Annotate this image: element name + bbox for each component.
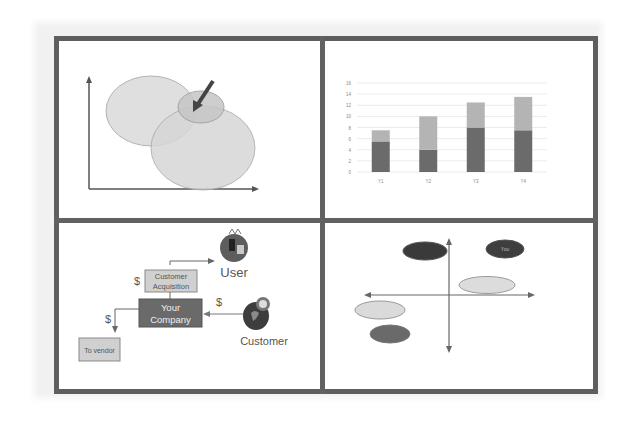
bar-segment (419, 150, 437, 172)
x-tick-label: Y4 (520, 179, 526, 184)
chart-y-ticks: 0246810121416 (346, 81, 352, 175)
y-tick-label: 8 (348, 126, 351, 131)
bar-segment (467, 128, 485, 173)
competitor-ellipse-top-left (403, 242, 447, 260)
bar-segment (372, 141, 390, 172)
competitor-ellipse-bottom (370, 325, 410, 343)
dollar-vendor: $ (105, 313, 111, 325)
dollar-acquisition: $ (134, 275, 140, 287)
company-line1: Your (161, 302, 180, 313)
y-tick-label: 10 (346, 114, 352, 119)
y-tick-label: 2 (348, 159, 351, 164)
bar-chart-panel: 0246810121416 Y1Y2Y3Y4 (325, 41, 593, 218)
positioning-panel: You (325, 223, 593, 389)
acquisition-line2: Acquisition (153, 282, 189, 291)
bar-segment (372, 130, 390, 141)
x-tick-label: Y2 (425, 179, 431, 184)
competitor-ellipse-right (459, 277, 515, 294)
x-tick-label: Y3 (473, 179, 479, 184)
y-tick-label: 12 (346, 103, 352, 108)
user-icon (220, 229, 248, 262)
user-label: User (220, 265, 248, 280)
vendor-label: To vendor (84, 347, 115, 354)
dollar-customer: $ (216, 296, 222, 308)
company-line2: Company (150, 314, 191, 325)
acquisition-line1: Customer (155, 272, 188, 281)
venn-panel (59, 41, 320, 218)
y-tick-label: 0 (348, 170, 351, 175)
competitor-ellipse-left (355, 301, 405, 319)
x-tick-label: Y1 (378, 179, 384, 184)
bar-segment (419, 116, 437, 149)
y-tick-label: 4 (348, 148, 351, 153)
flow-panel: User Customer Acquisition $ Your Company… (59, 223, 320, 389)
y-tick-label: 16 (346, 81, 352, 86)
bar-segment (467, 102, 485, 127)
customer-label: Customer (240, 335, 288, 347)
customer-icon (243, 297, 270, 330)
chart-x-labels: Y1Y2Y3Y4 (378, 179, 527, 184)
you-label: You (501, 246, 510, 252)
bar-segment (514, 97, 532, 130)
y-tick-label: 14 (346, 92, 352, 97)
y-tick-label: 6 (348, 137, 351, 142)
bar-segment (514, 130, 532, 172)
